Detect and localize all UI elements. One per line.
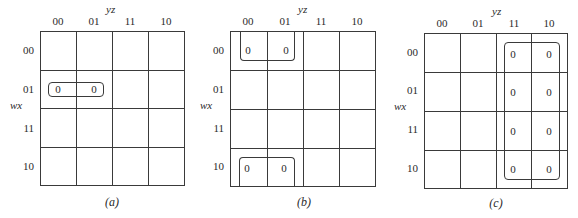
col-header-10: 10 (148, 16, 184, 27)
row-variable-label: wx (200, 100, 212, 111)
row-variable-label: wx (10, 100, 22, 111)
cell-value: 0 (503, 126, 523, 137)
col-header-00: 00 (230, 16, 266, 27)
cell-value: 0 (238, 45, 258, 56)
cell-value: 0 (539, 49, 559, 60)
cell-value: 0 (539, 164, 559, 175)
grouping-loop-bottom (239, 157, 295, 187)
col-variable-label: yz (492, 6, 501, 17)
row-header-01: 01 (204, 84, 224, 95)
col-header-11: 11 (112, 16, 148, 27)
col-variable-label: yz (298, 4, 307, 15)
caption: (b) (289, 197, 319, 208)
cell-value: 0 (274, 163, 294, 174)
kmap-grid (40, 31, 185, 186)
col-header-11: 11 (303, 16, 339, 27)
col-header-00: 00 (40, 16, 76, 27)
col-header-00: 00 (424, 18, 460, 29)
cell-value: 0 (539, 87, 559, 98)
cell-value: 0 (276, 45, 296, 56)
cell-value: 0 (503, 49, 523, 60)
col-header-01: 01 (76, 16, 112, 27)
col-header-10: 10 (531, 18, 567, 29)
col-header-01: 01 (460, 18, 496, 29)
col-variable-label: yz (106, 4, 115, 15)
row-header-10: 10 (398, 163, 418, 174)
row-header-00: 00 (14, 45, 34, 56)
row-header-01: 01 (14, 84, 34, 95)
grouping-loop-top (240, 31, 295, 61)
row-header-01: 01 (398, 85, 418, 96)
caption: (a) (97, 197, 127, 208)
cell-value: 0 (503, 87, 523, 98)
cell-value: 0 (84, 84, 104, 95)
row-header-00: 00 (204, 45, 224, 56)
kmap-grid (424, 33, 568, 189)
kmap-grid (230, 31, 376, 187)
cell-value: 0 (503, 164, 523, 175)
col-header-10: 10 (339, 16, 375, 27)
row-header-10: 10 (14, 161, 34, 172)
row-header-10: 10 (204, 161, 224, 172)
row-header-11: 11 (204, 123, 224, 134)
grouping-loop (504, 42, 560, 180)
row-header-11: 11 (14, 123, 34, 134)
cell-value: 0 (237, 163, 257, 174)
row-header-00: 00 (398, 47, 418, 58)
cell-value: 0 (48, 84, 68, 95)
row-variable-label: wx (394, 101, 406, 112)
cell-value: 0 (539, 126, 559, 137)
col-header-01: 01 (267, 16, 303, 27)
kmap-a: yz 00 01 11 10 00 01 wx 11 10 0 0 (a) (0, 0, 190, 218)
row-header-11: 11 (398, 124, 418, 135)
col-header-11: 11 (496, 18, 532, 29)
caption: (c) (481, 198, 511, 209)
